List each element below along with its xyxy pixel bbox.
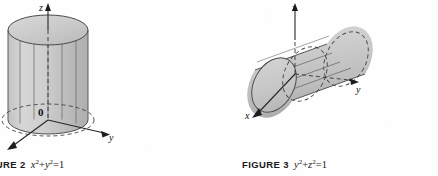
caption-figure-2: GURE 2x2+y2=1 bbox=[0, 160, 64, 171]
caption-figure-3: FIGURE 3y2+z2=1 bbox=[242, 160, 327, 171]
figure-3-block: z y x FIGURE 3y2+z2=1 bbox=[219, 0, 438, 176]
axis-label-y-figure-2: y bbox=[109, 133, 113, 143]
figure-2-block: z y 0 GURE 2x2+y2=1 bbox=[0, 0, 219, 176]
axis-label-z-figure-2: z bbox=[39, 3, 43, 13]
caption-label-figure-2: GURE 2 bbox=[0, 159, 26, 170]
figure-page: z y 0 GURE 2x2+y2=1 bbox=[0, 0, 438, 176]
origin-label-figure-2: 0 bbox=[38, 107, 44, 118]
caption-equation-figure-3: y2+z2=1 bbox=[294, 159, 327, 170]
caption-equation-figure-2: x2+y2=1 bbox=[31, 159, 64, 170]
figure-2-diagram bbox=[0, 0, 219, 176]
caption-eq-value-figure-2: 1 bbox=[59, 159, 64, 170]
axis-label-z-figure-3: z bbox=[292, 3, 296, 13]
axis-label-y-figure-3: y bbox=[356, 85, 360, 95]
figure-3-diagram bbox=[219, 0, 438, 176]
caption-eq-value-figure-3: 1 bbox=[322, 159, 327, 170]
caption-label-figure-3: FIGURE 3 bbox=[242, 159, 289, 170]
axis-label-x-figure-3: x bbox=[245, 111, 249, 121]
